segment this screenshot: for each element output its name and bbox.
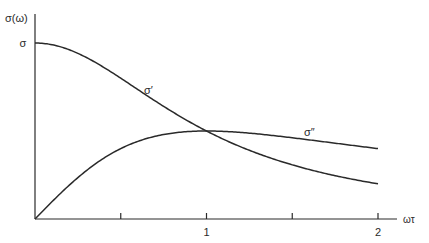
x-axis-label: ωτ xyxy=(403,214,415,225)
y-axis-label: σ(ω) xyxy=(5,12,28,24)
sigma-prime-curve xyxy=(35,43,378,184)
labels: 12σωτσ(ω)σ′σ″ xyxy=(5,12,415,238)
chart: 12σωτσ(ω)σ′σ″ xyxy=(0,0,429,243)
y-tick-label: σ xyxy=(20,37,27,49)
axes xyxy=(35,14,397,219)
x-tick-label: 2 xyxy=(375,226,381,238)
sigma-prime-label: σ′ xyxy=(144,84,153,96)
sigma-double-prime-label: σ″ xyxy=(304,126,315,138)
x-tick-label: 1 xyxy=(203,226,209,238)
curves xyxy=(35,43,378,219)
sigma-double-prime-curve xyxy=(35,131,378,219)
